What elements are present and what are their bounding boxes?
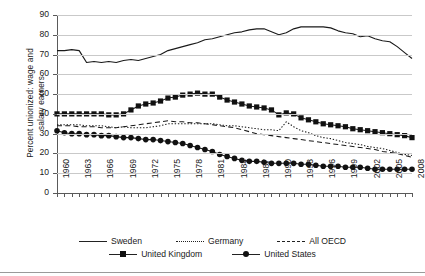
x-tick-1962: [72, 193, 73, 197]
legend-label: Sweden: [111, 236, 142, 246]
marker-united-states-1969: [121, 135, 127, 141]
marker-united-states-1996: [320, 164, 326, 170]
marker-united-kingdom-1999: [343, 124, 348, 129]
y-tick-label-60: 60: [27, 68, 49, 78]
x-tick-label-1996: 1996: [327, 159, 337, 199]
legend-key-line-circle-marker: [232, 249, 260, 259]
marker-united-kingdom-1982: [217, 94, 222, 99]
x-tick-label-1963: 1963: [83, 159, 93, 199]
legend-item-united-states[interactable]: United States: [232, 249, 316, 259]
x-tick-2004: [382, 193, 383, 197]
marker-united-kingdom-1989: [269, 107, 274, 112]
marker-united-kingdom-1983: [225, 97, 230, 102]
marker-united-kingdom-2008: [409, 135, 414, 140]
marker-united-kingdom-2000: [350, 126, 355, 131]
legend-item-sweden[interactable]: Sweden: [79, 236, 142, 246]
marker-united-kingdom-1988: [261, 105, 266, 110]
marker-united-states-1980: [202, 147, 208, 153]
x-tick-label-2008: 2008: [416, 159, 425, 199]
marker-united-kingdom-1996: [321, 121, 326, 126]
x-tick-1984: [235, 193, 236, 197]
legend-label: All OECD: [309, 236, 346, 246]
gridline-y-40: [57, 114, 412, 115]
y-tick-label-20: 20: [27, 147, 49, 157]
marker-united-states-1970: [128, 135, 134, 141]
x-tick-1992: [294, 193, 295, 197]
y-tick-label-70: 70: [27, 49, 49, 59]
marker-united-kingdom-1973: [151, 100, 156, 105]
marker-united-states-1968: [113, 134, 119, 140]
y-tick-60: [53, 74, 57, 75]
gridline-y-50: [57, 94, 412, 95]
marker-united-kingdom-1994: [306, 117, 311, 122]
marker-united-states-1960: [54, 128, 60, 134]
legend-item-all-oecd[interactable]: All OECD: [277, 236, 346, 246]
x-tick-1989: [271, 193, 272, 197]
y-tick-label-30: 30: [27, 128, 49, 138]
x-tick-1974: [161, 193, 162, 197]
legend-label: United States: [264, 249, 316, 259]
x-tick-label-1969: 1969: [128, 159, 138, 199]
marker-united-states-2008: [409, 166, 415, 172]
marker-united-kingdom-1998: [335, 123, 340, 128]
gridline-y-30: [57, 134, 412, 135]
gridline-y-80: [57, 35, 412, 36]
x-tick-1963: [79, 193, 80, 197]
y-axis-title-line2: salary earners: [36, 76, 46, 130]
y-tick-label-80: 80: [27, 29, 49, 39]
legend-row-secondary: United KingdomUnited States: [0, 249, 425, 259]
x-tick-2007: [405, 193, 406, 197]
legend-key-line-square-marker: [109, 249, 137, 259]
series-line-germany: [57, 122, 412, 156]
x-tick-label-1960: 1960: [61, 159, 71, 199]
marker-united-states-1990: [276, 161, 282, 167]
series-line-sweden: [57, 27, 412, 63]
marker-united-kingdom-1974: [158, 98, 163, 103]
marker-united-states-1971: [136, 136, 142, 142]
x-tick-label-1978: 1978: [194, 159, 204, 199]
legend-item-germany[interactable]: Germany: [176, 236, 243, 246]
marker-united-states-2002: [365, 165, 371, 171]
x-tick-1986: [249, 193, 250, 197]
y-tick-50: [53, 94, 57, 95]
y-tick-90: [53, 15, 57, 16]
x-tick-1996: [323, 193, 324, 197]
y-tick-40: [53, 114, 57, 115]
y-tick-label-40: 40: [27, 108, 49, 118]
legend-key-line-solid: [79, 236, 107, 246]
x-tick-1977: [183, 193, 184, 197]
y-tick-80: [53, 35, 57, 36]
x-tick-2001: [360, 193, 361, 197]
x-tick-label-1984: 1984: [239, 159, 249, 199]
marker-united-states-1978: [187, 143, 193, 149]
legend-key-line-dotted: [176, 236, 204, 246]
y-tick-10: [53, 173, 57, 174]
marker-united-states-1972: [143, 137, 149, 143]
y-tick-label-90: 90: [27, 9, 49, 19]
x-tick-2008: [412, 193, 413, 197]
marker-united-states-1977: [180, 141, 186, 147]
y-tick-label-50: 50: [27, 88, 49, 98]
legend-row-primary: SwedenGermanyAll OECD: [0, 236, 425, 246]
x-tick-1960: [57, 193, 58, 197]
chart-legend: SwedenGermanyAll OECD United KingdomUnit…: [0, 236, 425, 259]
x-tick-label-1990: 1990: [283, 159, 293, 199]
y-tick-label-10: 10: [27, 167, 49, 177]
y-axis-title: Percent unionized: wage and salary earne…: [25, 13, 47, 193]
series-line-all-oecd: [57, 121, 412, 158]
marker-united-kingdom-1975: [165, 95, 170, 100]
chart-figure: Percent unionized: wage and salary earne…: [0, 0, 425, 276]
y-tick-20: [53, 153, 57, 154]
marker-united-kingdom-1995: [313, 119, 318, 124]
legend-item-united-kingdom[interactable]: United Kingdom: [109, 249, 202, 259]
x-tick-label-1972: 1972: [150, 159, 160, 199]
x-tick-label-2005: 2005: [394, 159, 404, 199]
marker-united-states-1975: [165, 139, 171, 145]
legend-label: United Kingdom: [141, 249, 202, 259]
marker-united-kingdom-1976: [173, 94, 178, 99]
marker-united-states-1993: [298, 162, 304, 168]
marker-united-states-1973: [150, 137, 156, 143]
x-tick-1968: [116, 193, 117, 197]
x-tick-1983: [227, 193, 228, 197]
x-tick-label-1966: 1966: [105, 159, 115, 199]
